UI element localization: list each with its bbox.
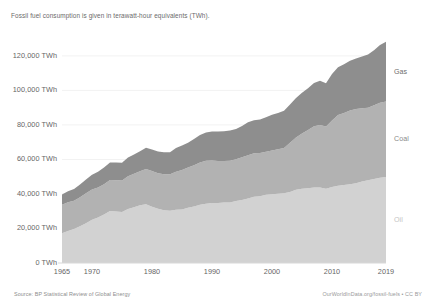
y-axis-tick-label-80000: 80,000 TWh <box>17 120 57 129</box>
series-label-coal: Coal <box>394 135 409 143</box>
fossil-fuel-consumption-chart: Fossil fuel consumption is given in tera… <box>0 0 431 306</box>
y-axis-tick-label-120000: 120,000 TWh <box>13 51 57 60</box>
source-note: Source: BP Statistical Review of Global … <box>14 291 130 297</box>
credit-note[interactable]: OurWorldInData.org/fossil-fuels • CC BY <box>322 291 422 297</box>
y-axis-tick-label-60000: 60,000 TWh <box>17 154 57 163</box>
x-axis-tick-label-1990: 1990 <box>198 267 226 276</box>
x-axis-tick-label-2000: 2000 <box>258 267 286 276</box>
y-axis-tick-label-20000: 20,000 TWh <box>17 223 57 232</box>
series-label-oil: Oil <box>394 216 403 224</box>
x-axis-tick-label-1980: 1980 <box>138 267 166 276</box>
stacked-areas-group <box>62 42 386 263</box>
x-axis-tick-label-1965: 1965 <box>48 267 76 276</box>
x-axis-tick-label-2019: 2019 <box>372 267 400 276</box>
y-axis-tick-label-0: 0 TWh <box>35 258 57 267</box>
series-label-gas: Gas <box>394 68 407 76</box>
chart-plot-area <box>0 0 431 306</box>
x-axis-tick-label-2010: 2010 <box>318 267 346 276</box>
x-axis-tick-label-1970: 1970 <box>78 267 106 276</box>
y-axis-tick-label-40000: 40,000 TWh <box>17 189 57 198</box>
y-axis-tick-label-100000: 100,000 TWh <box>13 85 57 94</box>
